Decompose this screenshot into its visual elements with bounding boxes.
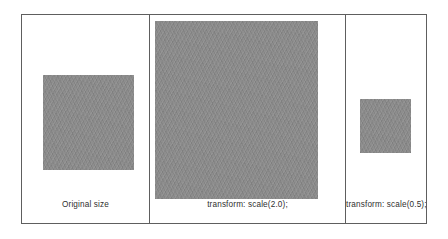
caption-original-size: Original size xyxy=(22,186,149,223)
panel-original-size: Original size xyxy=(22,15,149,223)
swatch-area-original xyxy=(22,15,149,186)
caption-scale-down: transform: scale(0.5); xyxy=(346,186,426,223)
panel-scale-up: transform: scale(2.0); xyxy=(149,15,345,223)
original-square-swatch xyxy=(43,75,134,170)
figure-frame: Original size transform: scale(2.0); tra… xyxy=(21,14,427,224)
panel-scale-down: transform: scale(0.5); xyxy=(345,15,426,223)
scaled-down-square-swatch xyxy=(360,99,411,153)
swatch-area-scale-down xyxy=(346,15,426,186)
scaled-up-square-swatch xyxy=(155,21,318,199)
swatch-area-scale-up xyxy=(150,15,345,186)
